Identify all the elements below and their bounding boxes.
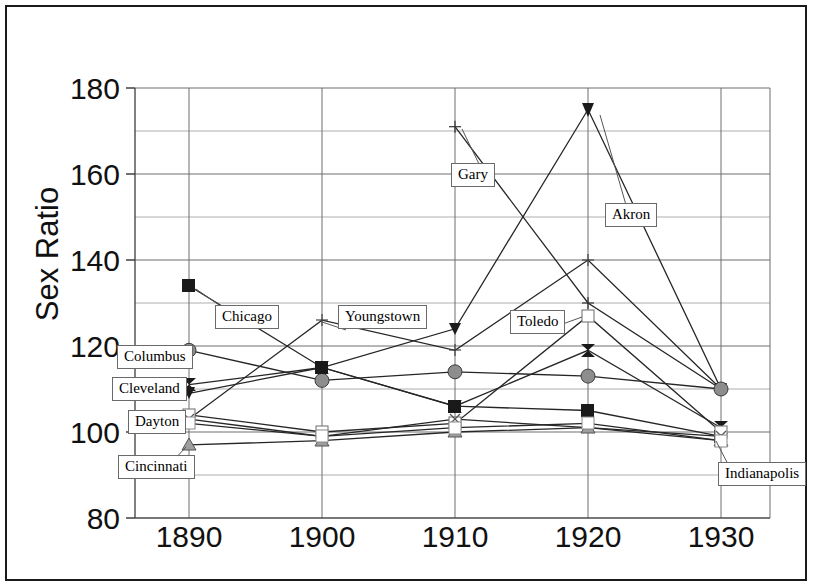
callout-youngstown[interactable]: Youngstown xyxy=(338,305,427,329)
callout-akron[interactable]: Akron xyxy=(605,203,657,227)
callout-columbus[interactable]: Columbus xyxy=(117,345,193,369)
callout-indianapolis[interactable]: Indianapolis xyxy=(718,462,806,486)
callout-cincinnati[interactable]: Cincinnati xyxy=(118,455,195,479)
callout-toledo[interactable]: Toledo xyxy=(510,310,565,334)
y-tick-marks xyxy=(126,88,135,518)
callout-chicago[interactable]: Chicago xyxy=(215,305,279,329)
callout-dayton[interactable]: Dayton xyxy=(128,410,186,434)
plot-canvas xyxy=(0,0,814,588)
callout-cleveland[interactable]: Cleveland xyxy=(112,377,187,401)
callout-gary[interactable]: Gary xyxy=(451,163,495,187)
sex-ratio-line-chart: Sex Ratio 180 160 140 120 100 80 1890 19… xyxy=(0,0,814,588)
